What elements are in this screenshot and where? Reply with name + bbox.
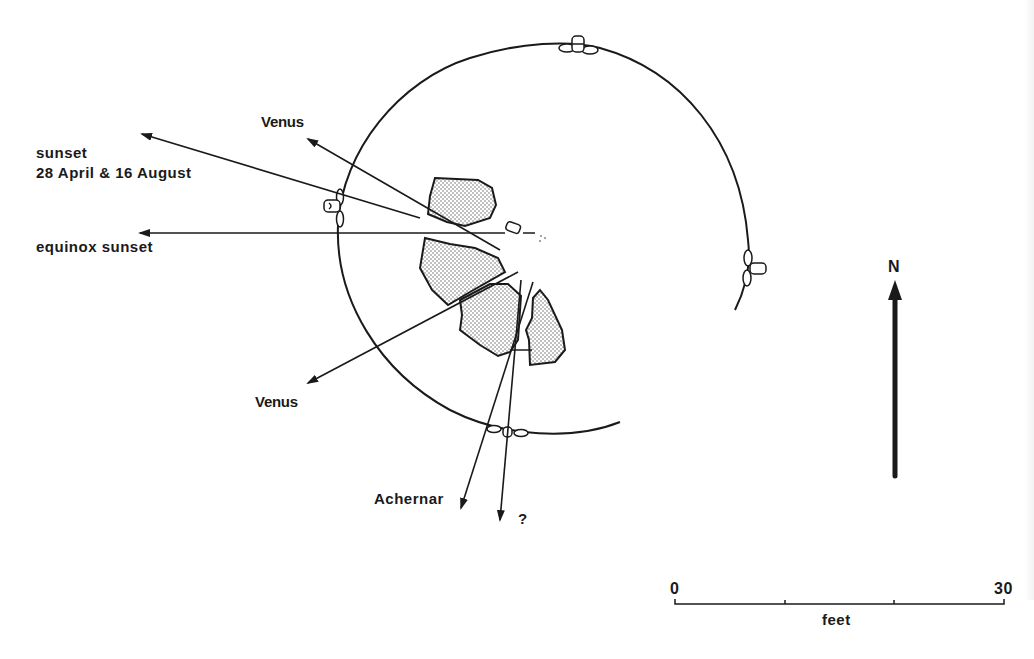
- scale-bar-start: 0: [670, 579, 679, 599]
- north-arrow: [888, 280, 902, 476]
- label-sunset-line1: sunset: [36, 143, 87, 163]
- stone-circle-outline: [338, 43, 749, 433]
- label-unknown-target: ?: [518, 509, 528, 529]
- stone-north: [428, 178, 496, 226]
- scale-bar: [675, 599, 1004, 604]
- label-venus-southwest: Venus: [255, 392, 298, 412]
- label-achernar: Achernar: [374, 489, 444, 509]
- north-arrow-label: N: [888, 257, 900, 277]
- marker-stone-east: [743, 250, 766, 286]
- site-plan-diagram: [0, 0, 1034, 659]
- scale-bar-unit: feet: [822, 610, 851, 630]
- center-marker: [505, 221, 546, 242]
- page-edge-shadow: [1024, 0, 1034, 600]
- label-equinox-sunset: equinox sunset: [36, 237, 153, 257]
- scale-bar-end: 30: [994, 579, 1013, 599]
- label-sunset-dates: 28 April & 16 August: [36, 163, 192, 183]
- stone-southeast: [526, 290, 565, 365]
- marker-stone-north: [559, 36, 598, 54]
- label-venus-northwest: Venus: [261, 112, 304, 132]
- stone-southwest: [460, 284, 521, 356]
- central-stones: [420, 178, 565, 365]
